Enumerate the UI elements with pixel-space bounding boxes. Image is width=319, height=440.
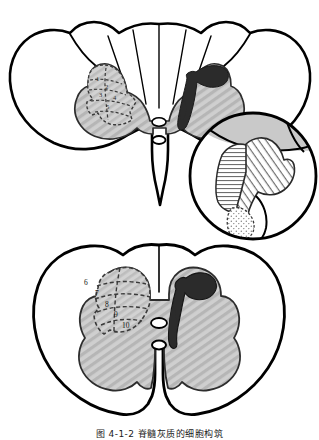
upper-ventral-fissure-head [153, 136, 166, 144]
upper-central-canal [152, 118, 166, 126]
lower-lamina-number: 6 [84, 278, 88, 287]
upper-lamina-number: 1 [96, 75, 99, 82]
lumbar-cord-section: 6 7 8 9 10 [34, 244, 285, 414]
lower-central-canal [151, 318, 167, 328]
magnified-detail-circle [190, 112, 319, 244]
upper-lamina-number: 5 [106, 103, 109, 110]
spinal-cord-figure-canvas: 1 2 3 4 5 [0, 0, 319, 440]
lower-lamina-number: 7 [95, 289, 99, 298]
figure-caption: 图 4-1-2 脊髓灰质的细胞构筑 [0, 429, 319, 440]
lower-lamina-number: 10 [122, 321, 130, 330]
lower-ventral-fissure-head [152, 341, 166, 350]
figure-root: 1 2 3 4 5 [0, 0, 319, 440]
figure-caption-row: 图 4-1-2 脊髓灰质的细胞构筑 [0, 429, 319, 440]
lower-lamina-number: 8 [105, 300, 109, 309]
upper-lamina-number: 2 [105, 83, 108, 90]
upper-lamina-number: 3 [99, 91, 102, 98]
lower-lamina-number: 9 [114, 310, 118, 319]
